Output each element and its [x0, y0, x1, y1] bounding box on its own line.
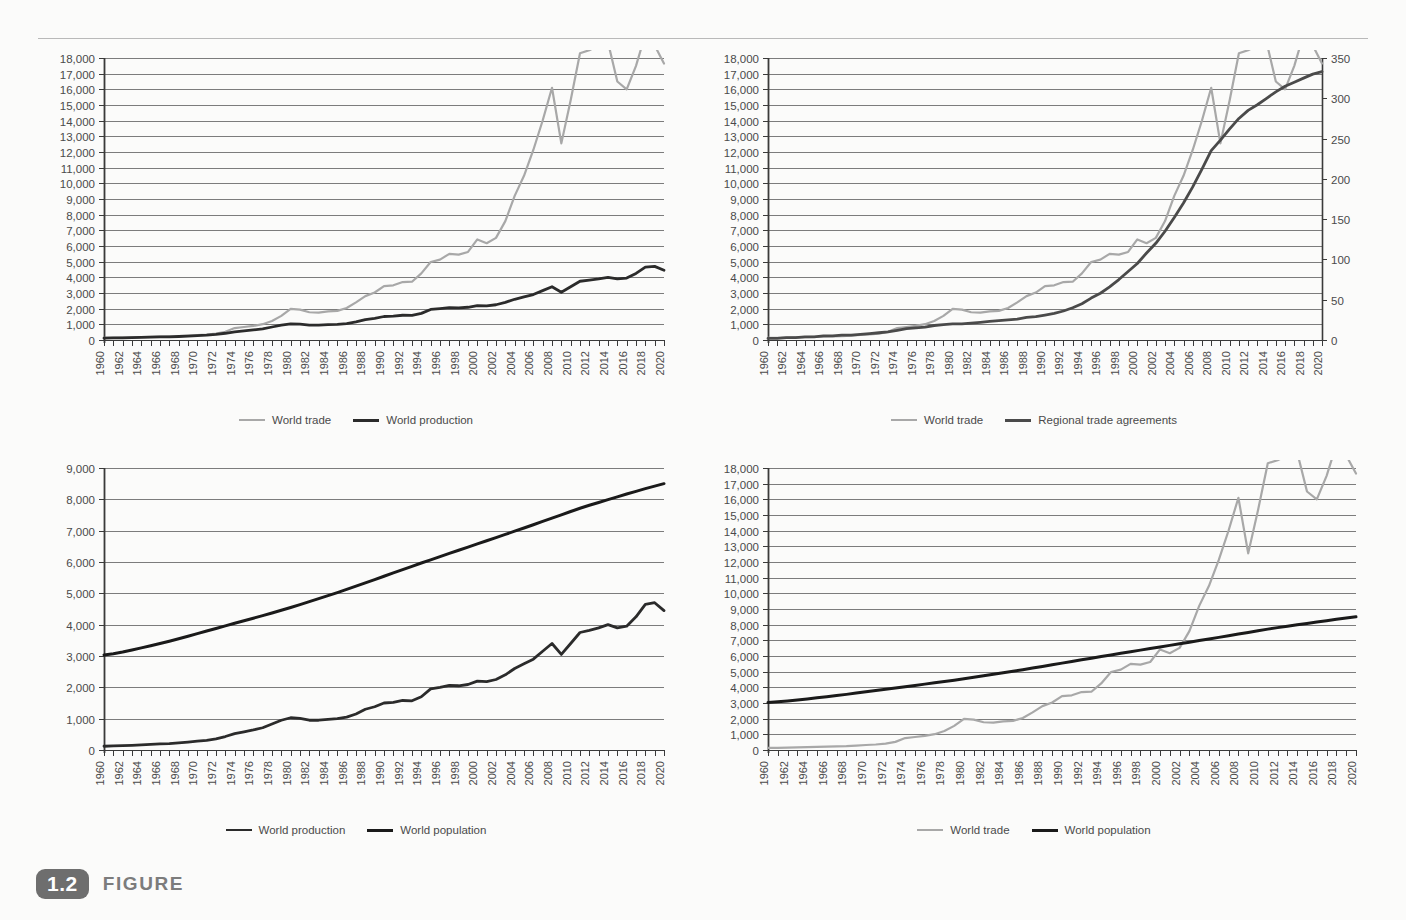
x-tick-label: 2006 [1209, 761, 1221, 785]
y-tick-label-right: 100 [1331, 254, 1350, 266]
x-tick-label: 1988 [1017, 351, 1029, 375]
y-tick-label: 9,000 [730, 194, 759, 206]
legend-entry: World production [353, 414, 473, 426]
x-tick-label: 1996 [430, 351, 442, 375]
x-tick-label: 2008 [1228, 761, 1240, 785]
figure-number-badge: 1.2 [36, 869, 89, 899]
x-tick-label: 2010 [1248, 761, 1260, 785]
chart-svg-top-right: 01,0002,0003,0004,0005,0006,0007,0008,00… [700, 50, 1368, 450]
series-line-world_population [768, 617, 1356, 703]
legend-entry: World production [226, 824, 346, 836]
y-tick-label: 3,000 [730, 288, 759, 300]
y-tick-label: 4,000 [66, 620, 95, 632]
legend-label: World production [386, 414, 473, 426]
x-tick-label: 2000 [1150, 761, 1162, 785]
x-axis-ticks: 1960196219641966196819701972197419761978… [94, 750, 666, 785]
y-tick-label: 14,000 [724, 526, 759, 538]
gridlines: 01,0002,0003,0004,0005,0006,0007,0008,00… [66, 463, 664, 757]
x-axis-ticks: 1960196219641966196819701972197419761978… [758, 340, 1324, 375]
x-tick-label: 1968 [836, 761, 848, 785]
x-tick-label: 1966 [817, 761, 829, 785]
x-tick-label: 1964 [795, 351, 807, 375]
x-tick-label: 1974 [225, 351, 237, 375]
y-tick-label: 10,000 [60, 178, 95, 190]
y-tick-label: 10,000 [724, 588, 759, 600]
y-tick-label: 2,000 [730, 304, 759, 316]
y-tick-label: 15,000 [60, 100, 95, 112]
y-tick-label-right: 0 [1331, 335, 1337, 347]
y-tick-label: 7,000 [730, 635, 759, 647]
x-tick-label: 2016 [1307, 761, 1319, 785]
x-tick-label: 2020 [654, 351, 666, 375]
y-tick-label: 0 [89, 335, 95, 347]
x-tick-label: 2008 [1201, 351, 1213, 375]
x-tick-label: 1972 [876, 761, 888, 785]
figure-page: 01,0002,0003,0004,0005,0006,0007,0008,00… [0, 0, 1406, 920]
x-tick-label: 2020 [1346, 761, 1358, 785]
x-tick-label: 1984 [993, 761, 1005, 785]
legend-swatch-world_production [353, 419, 379, 422]
y-tick-label: 1,000 [66, 714, 95, 726]
chart-legend-top-right: World tradeRegional trade agreements [700, 414, 1368, 426]
x-tick-label: 1982 [299, 761, 311, 785]
y-tick-label-right: 300 [1331, 93, 1350, 105]
x-tick-label: 1976 [906, 351, 918, 375]
y-tick-label: 2,000 [66, 304, 95, 316]
chart-legend-bottom-left: World productionWorld population [36, 824, 676, 836]
y-tick-label-right: 350 [1331, 53, 1350, 65]
x-tick-label: 2018 [1326, 761, 1338, 785]
y-tick-label: 5,000 [730, 257, 759, 269]
y-tick-label: 10,000 [724, 178, 759, 190]
y-tick-label: 17,000 [724, 69, 759, 81]
x-tick-label: 1974 [887, 351, 899, 375]
y-tick-label: 15,000 [724, 100, 759, 112]
x-axis-ticks: 1960196219641966196819701972197419761978… [94, 340, 666, 375]
x-tick-label: 1986 [998, 351, 1010, 375]
x-tick-label: 1990 [374, 761, 386, 785]
series-line-world_production [104, 603, 664, 747]
x-tick-label: 2016 [617, 351, 629, 375]
x-tick-label: 1998 [1109, 351, 1121, 375]
x-tick-label: 1986 [1013, 761, 1025, 785]
legend-swatch-regional_trade_agreements [1005, 419, 1031, 422]
y-tick-label: 15,000 [724, 510, 759, 522]
y-tick-label: 1,000 [66, 319, 95, 331]
y-tick-label: 4,000 [66, 272, 95, 284]
x-tick-label: 1982 [974, 761, 986, 785]
x-tick-label: 1970 [187, 761, 199, 785]
y-tick-label: 12,000 [60, 147, 95, 159]
y-tick-label: 17,000 [724, 479, 759, 491]
y-tick-label: 8,000 [66, 494, 95, 506]
x-tick-label: 1980 [954, 761, 966, 785]
x-tick-label: 2004 [1164, 351, 1176, 375]
x-tick-label: 1962 [113, 761, 125, 785]
gridlines: 01,0002,0003,0004,0005,0006,0007,0008,00… [724, 463, 1356, 757]
x-tick-label: 2002 [1170, 761, 1182, 785]
y-tick-label: 0 [89, 745, 95, 757]
y-tick-label: 16,000 [724, 494, 759, 506]
x-tick-label: 1980 [943, 351, 955, 375]
x-tick-label: 1970 [850, 351, 862, 375]
x-tick-label: 1960 [94, 761, 106, 785]
x-tick-label: 2006 [523, 761, 535, 785]
x-tick-label: 2012 [1268, 761, 1280, 785]
y-tick-label: 18,000 [724, 53, 759, 65]
x-tick-label: 1996 [430, 761, 442, 785]
x-tick-label: 1998 [449, 351, 461, 375]
x-tick-label: 1972 [869, 351, 881, 375]
x-tick-label: 2014 [598, 761, 610, 785]
y-tick-label: 7,000 [66, 526, 95, 538]
x-tick-label: 1964 [131, 761, 143, 785]
legend-swatch-world_production [226, 829, 252, 831]
y-tick-label: 6,000 [730, 651, 759, 663]
y-tick-label-right: 150 [1331, 214, 1350, 226]
y-tick-label: 16,000 [60, 84, 95, 96]
y-tick-label: 8,000 [730, 620, 759, 632]
x-tick-label: 2014 [598, 351, 610, 375]
x-tick-label: 2004 [505, 761, 517, 785]
x-tick-label: 1962 [776, 351, 788, 375]
x-tick-label: 2002 [1146, 351, 1158, 375]
y-tick-label: 13,000 [60, 131, 95, 143]
chart-panel-bottom-left: 01,0002,0003,0004,0005,0006,0007,0008,00… [36, 460, 676, 860]
y-tick-label: 13,000 [724, 131, 759, 143]
